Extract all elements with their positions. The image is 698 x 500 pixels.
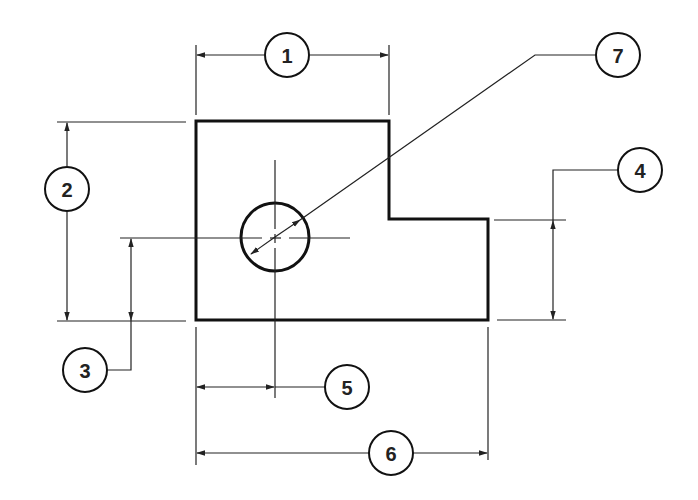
balloon-2: 2 <box>45 167 89 211</box>
svg-text:3: 3 <box>79 360 90 382</box>
dimension-drawing: 1 2 3 4 5 6 7 <box>0 0 698 500</box>
svg-text:6: 6 <box>385 443 396 465</box>
dimension-5 <box>196 327 325 465</box>
svg-text:4: 4 <box>634 160 646 182</box>
svg-text:7: 7 <box>612 45 623 67</box>
centerlines <box>120 160 350 398</box>
balloon-1: 1 <box>265 33 309 77</box>
dimension-7 <box>251 55 596 254</box>
svg-text:2: 2 <box>61 179 72 201</box>
dimension-3 <box>108 239 131 370</box>
part-outline <box>196 121 488 320</box>
dimension-2 <box>57 122 186 321</box>
svg-text:5: 5 <box>341 377 352 399</box>
balloon-7: 7 <box>596 33 640 77</box>
balloon-5: 5 <box>325 365 369 409</box>
balloon-3: 3 <box>63 348 107 392</box>
dimension-4 <box>494 170 618 320</box>
balloon-6: 6 <box>369 431 413 475</box>
balloon-4: 4 <box>618 148 662 192</box>
svg-text:1: 1 <box>281 45 292 67</box>
